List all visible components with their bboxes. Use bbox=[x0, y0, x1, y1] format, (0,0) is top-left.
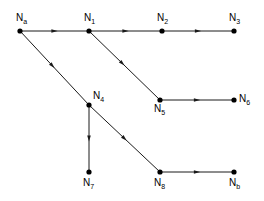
node-label-subscript: 1 bbox=[91, 18, 95, 25]
node-na[interactable] bbox=[17, 28, 22, 33]
node-label-n7: N7 bbox=[83, 178, 94, 190]
node-label-n5: N5 bbox=[154, 104, 165, 116]
node-group bbox=[17, 28, 236, 174]
node-label-n4: N4 bbox=[93, 91, 104, 103]
node-nb[interactable] bbox=[231, 169, 236, 174]
node-label-subscript: 3 bbox=[236, 18, 240, 25]
node-label-n2: N2 bbox=[157, 13, 168, 25]
arrowhead-group bbox=[49, 29, 201, 174]
arrowhead-n5-to-n6 bbox=[194, 98, 200, 102]
node-label-n8: N8 bbox=[154, 178, 165, 190]
graph-svg bbox=[0, 0, 264, 201]
node-label-subscript: 5 bbox=[161, 109, 165, 116]
arrowhead-n4-to-n7 bbox=[87, 135, 91, 141]
node-label-n3: N3 bbox=[229, 13, 240, 25]
arrowhead-na-to-n1 bbox=[51, 29, 57, 33]
node-n7[interactable] bbox=[86, 169, 91, 174]
edge-group bbox=[20, 31, 234, 172]
node-label-subscript: 4 bbox=[100, 96, 104, 103]
node-n4[interactable] bbox=[86, 102, 91, 107]
node-label-subscript: 2 bbox=[164, 18, 168, 25]
node-label-na: Na bbox=[16, 13, 27, 25]
arrowhead-n1-to-n2 bbox=[122, 29, 128, 33]
node-n6[interactable] bbox=[231, 97, 236, 102]
node-label-subscript: b bbox=[236, 183, 240, 190]
node-label-nb: Nb bbox=[229, 178, 240, 190]
node-label-subscript: 6 bbox=[246, 99, 250, 106]
arrowhead-n2-to-n3 bbox=[195, 29, 201, 33]
node-n8[interactable] bbox=[157, 169, 162, 174]
node-n2[interactable] bbox=[159, 28, 164, 33]
diagram-canvas: NaN1N2N3N4N5N6N7N8Nb bbox=[0, 0, 264, 201]
arrowhead-n8-to-nb bbox=[194, 170, 200, 174]
node-label-subscript: 8 bbox=[161, 183, 165, 190]
node-label-subscript: a bbox=[23, 18, 27, 25]
node-label-n6: N6 bbox=[239, 94, 250, 106]
node-label-n1: N1 bbox=[84, 13, 95, 25]
node-n3[interactable] bbox=[231, 28, 236, 33]
node-n1[interactable] bbox=[86, 28, 91, 33]
node-n5[interactable] bbox=[157, 97, 162, 102]
node-label-subscript: 7 bbox=[90, 183, 94, 190]
